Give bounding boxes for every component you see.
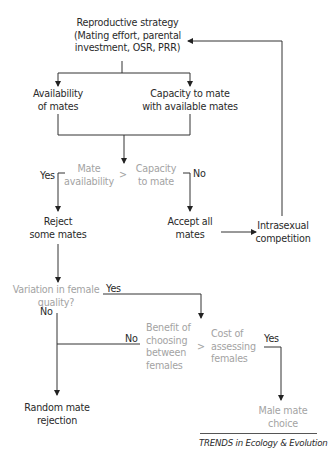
label-yes-reject: Yes (40, 170, 55, 183)
node-mate-availability: Mate availability (64, 163, 114, 188)
comparator-2: > (195, 341, 207, 354)
node-intrasexual-competition: Intrasexual competition (252, 220, 314, 245)
node-capacity-to-mate: Capacity to mate (131, 163, 181, 188)
node-reproductive-strategy: Reproductive strategy (Mating effort, pa… (70, 17, 185, 55)
node-reject-some-mates: Reject some mates (25, 216, 91, 241)
flowchart: Reproductive strategy (Mating effort, pa… (0, 0, 334, 459)
node-availability-of-mates: Availability of mates (25, 88, 91, 113)
source-credit: TRENDS in Ecology & Evolution (199, 438, 327, 448)
label-no-accept: No (193, 168, 206, 181)
comparator-1: > (116, 169, 130, 182)
node-male-mate-choice: Male mate choice (250, 405, 316, 430)
node-benefit-of-choosing: Benefit of choosing between females (146, 322, 191, 372)
label-yes-variation: Yes (106, 283, 121, 296)
node-cost-of-assessing: Cost of assessing females (211, 328, 256, 366)
label-yes-cost: Yes (264, 333, 279, 346)
node-capacity-to-mate-with-available-mates: Capacity to mate with available mates (135, 88, 245, 113)
node-random-mate-rejection: Random mate rejection (15, 402, 99, 427)
label-no-variation: No (40, 306, 53, 319)
node-variation-in-female-quality: Variation in female quality? (8, 284, 104, 309)
label-no-benefit: No (125, 333, 138, 346)
source-divider (200, 433, 317, 434)
node-accept-all-mates: Accept all mates (160, 216, 220, 241)
